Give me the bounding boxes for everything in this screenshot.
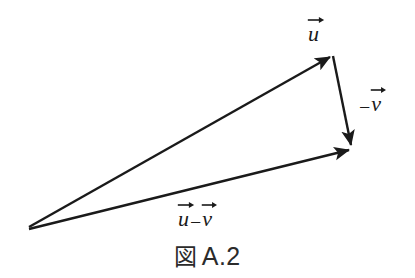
vec-v: v [371,84,381,115]
caption-figure-word: 図 [174,244,202,270]
vector-v-letter: v [202,208,212,230]
figure-caption: 図A.2 [0,238,415,272]
vector-minus-v [333,56,351,145]
minus-operator: − [358,97,371,117]
right-arrow-icon [201,201,218,209]
caption-figure-number: A.2 [202,242,241,270]
vector-u-letter: u [308,23,319,45]
vec-v-operand: v [202,199,212,230]
vector-v-letter: v [371,93,381,115]
right-arrow-icon [177,201,195,209]
minus-operator: − [189,212,202,232]
vector-diagram [0,0,415,278]
figure-container: u − v u − v 図A.2 [0,0,415,278]
right-arrow-icon [370,86,387,94]
label-vector-u-minus-v: u − v [178,199,212,231]
label-vector-minus-v: − v [358,84,381,116]
vec-u-operand: u [178,199,189,230]
vector-u-letter: u [178,208,189,230]
right-arrow-icon [307,16,325,24]
vec-u: u [308,14,319,45]
label-vector-u: u [308,14,319,45]
